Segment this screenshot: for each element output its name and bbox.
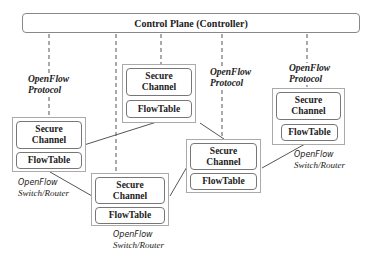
switch-label-line1: OpenFlow — [18, 178, 69, 188]
switch-label: OpenFlow Switch/Router — [294, 150, 345, 170]
secure-channel-line1: Secure — [210, 146, 237, 157]
protocol-label: OpenFlow Protocol — [28, 74, 69, 96]
secure-channel-box: Secure Channel — [276, 92, 341, 120]
protocol-label-line1: OpenFlow — [28, 74, 69, 85]
openflow-switch: Secure Channel FlowTable — [91, 173, 169, 226]
secure-channel-box: Secure Channel — [190, 143, 257, 170]
openflow-switch: Secure Channel FlowTable — [12, 117, 86, 172]
flowtable-box: FlowTable — [95, 207, 165, 224]
protocol-label-line1: OpenFlow — [289, 63, 330, 74]
protocol-label-line2: Protocol — [210, 78, 251, 89]
secure-channel-line2: Channel — [142, 82, 176, 93]
flowtable-box: FlowTable — [190, 173, 257, 190]
openflow-switch: Secure Channel FlowTable — [186, 139, 261, 193]
secure-channel-line1: Secure — [295, 95, 322, 106]
switch-label-line1: OpenFlow — [294, 150, 345, 160]
secure-channel-line1: Secure — [145, 71, 172, 82]
secure-channel-line2: Channel — [291, 106, 325, 117]
secure-channel-line2: Channel — [206, 157, 240, 168]
flowtable-box: FlowTable — [16, 152, 82, 169]
switch-label: OpenFlow Switch/Router — [18, 178, 69, 198]
switch-label-line1: OpenFlow — [113, 230, 164, 240]
secure-channel-line2: Channel — [113, 191, 147, 202]
switch-label-line2: Switch/Router — [18, 188, 69, 198]
secure-channel-line2: Channel — [32, 135, 66, 146]
switch-label-line2: Switch/Router — [113, 240, 164, 250]
protocol-label-line2: Protocol — [289, 74, 330, 85]
secure-channel-box: Secure Channel — [126, 68, 192, 96]
secure-channel-box: Secure Channel — [95, 177, 165, 204]
control-plane-box: Control Plane (Controller) — [22, 13, 360, 33]
switch-label-line2: Switch/Router — [294, 160, 345, 170]
secure-channel-box: Secure Channel — [16, 121, 82, 149]
protocol-label: OpenFlow Protocol — [210, 67, 251, 89]
protocol-label-line1: OpenFlow — [210, 67, 251, 78]
flowtable-box: FlowTable — [126, 100, 192, 118]
openflow-switch: Secure Channel FlowTable — [122, 64, 196, 123]
openflow-switch: Secure Channel FlowTable — [272, 88, 345, 145]
flowtable-box: FlowTable — [281, 124, 338, 141]
protocol-label-line2: Protocol — [28, 85, 69, 96]
secure-channel-line1: Secure — [116, 180, 143, 191]
protocol-label: OpenFlow Protocol — [289, 63, 330, 85]
secure-channel-line1: Secure — [35, 124, 62, 135]
switch-label: OpenFlow Switch/Router — [113, 230, 164, 250]
